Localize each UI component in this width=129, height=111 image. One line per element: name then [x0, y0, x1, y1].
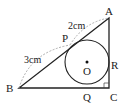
center-point-o — [86, 61, 89, 64]
triangle-abc — [19, 18, 109, 88]
label-a: A — [105, 5, 113, 17]
geometry-diagram: A B C P Q R O 2cm 3cm — [0, 0, 129, 111]
label-b: B — [6, 82, 13, 94]
label-c: C — [110, 91, 117, 103]
label-q: Q — [83, 91, 91, 103]
label-r: R — [111, 59, 119, 71]
right-angle-marker — [104, 83, 109, 88]
label-p: P — [62, 32, 68, 44]
label-o: O — [83, 65, 91, 77]
measure-bp: 3cm — [24, 54, 41, 65]
measure-ap: 2cm — [68, 20, 85, 31]
